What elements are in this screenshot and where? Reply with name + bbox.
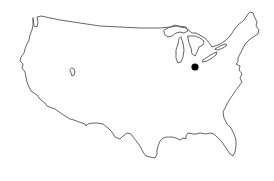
- lake-ontario: [215, 44, 227, 50]
- lake-erie: [203, 52, 217, 62]
- lake-huron: [188, 36, 204, 56]
- lake-michigan: [176, 37, 184, 63]
- us-map: [0, 0, 274, 181]
- great-salt-lake: [70, 68, 75, 76]
- us-outline: [20, 12, 259, 158]
- location-marker[interactable]: [191, 63, 198, 70]
